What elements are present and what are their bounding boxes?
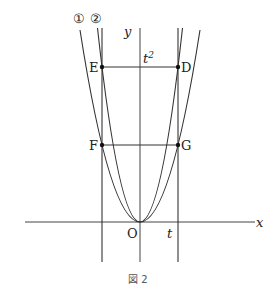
label-G: G	[181, 138, 191, 153]
point-D	[176, 65, 180, 69]
label-E: E	[89, 60, 99, 75]
figure-2-diagram: E D F G ① ② y x O t t2 図 2	[0, 0, 275, 297]
figure-caption: 図 2	[128, 274, 148, 285]
y-tick-superscript: 2	[147, 50, 154, 60]
label-F: F	[89, 138, 98, 153]
x-tick-t-label: t	[167, 226, 173, 241]
point-E	[100, 65, 104, 69]
y-tick-t2-label: t2	[143, 50, 154, 66]
point-F	[100, 143, 104, 147]
y-axis-label: y	[123, 24, 132, 39]
curve-2-marker: ②	[90, 11, 102, 26]
point-G	[176, 143, 180, 147]
label-D: D	[181, 60, 191, 75]
origin-label: O	[127, 226, 138, 241]
x-axis-label: x	[256, 215, 264, 230]
curve-1-marker: ①	[73, 11, 85, 26]
